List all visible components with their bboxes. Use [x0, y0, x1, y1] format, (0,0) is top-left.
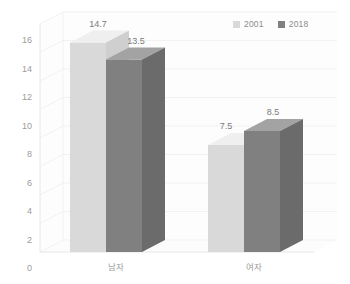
y-axis-tick-16: 16	[10, 36, 32, 45]
bar-남자-2018-side	[142, 48, 165, 252]
chart-legend: 2001 2018	[233, 19, 308, 29]
data-label-여자-2018: 8.5	[253, 108, 293, 117]
y-axis-tick-10: 10	[10, 122, 32, 131]
bar-남자-2018-front	[106, 60, 142, 252]
legend-swatch-2018	[278, 21, 285, 28]
bar-group-여자	[208, 119, 303, 252]
legend-label-2018: 2018	[289, 19, 309, 29]
y-axis-tick-8: 8	[10, 150, 32, 159]
bar-여자-2001-front	[208, 145, 244, 252]
x-axis-tick-male: 남자	[86, 263, 146, 272]
y-axis-tick-12: 12	[10, 93, 32, 102]
bar-남자-2001-front	[70, 43, 106, 253]
bar-여자-2018-front	[244, 131, 280, 252]
legend-item-2001[interactable]: 2001	[233, 19, 264, 29]
y-axis-tick-0: 0	[10, 264, 32, 273]
chart-container: 2001 2018 16 14 12 10 8 6 4 2 0 남자 여자 14…	[0, 0, 350, 284]
data-label-여자-2001: 7.5	[206, 122, 246, 131]
x-axis-tick-female: 여자	[224, 263, 284, 272]
y-axis-tick-6: 6	[10, 179, 32, 188]
data-label-남자-2001: 14.7	[78, 20, 118, 29]
legend-swatch-2001	[233, 21, 240, 28]
bar-group-남자	[70, 31, 165, 253]
y-axis-tick-2: 2	[10, 236, 32, 245]
bar-여자-2018-side	[280, 119, 303, 252]
legend-item-2018[interactable]: 2018	[278, 19, 309, 29]
legend-label-2001: 2001	[244, 19, 264, 29]
y-axis-tick-4: 4	[10, 207, 32, 216]
data-label-남자-2018: 13.5	[116, 37, 156, 46]
chart-plot-area	[0, 0, 350, 284]
y-axis-tick-14: 14	[10, 65, 32, 74]
